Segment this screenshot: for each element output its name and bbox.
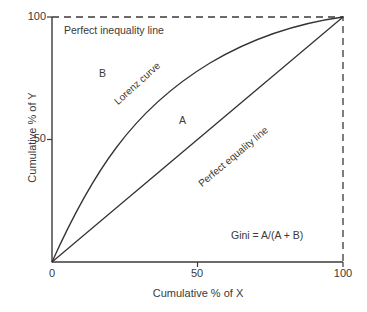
plot-canvas (0, 0, 367, 312)
perfect-equality-line (52, 17, 343, 262)
region-b-label: B (99, 68, 106, 79)
lorenz-curve-figure: 100 50 0 50 100 Cumulative % of X Cumula… (0, 0, 367, 312)
x-tick-label-0: 0 (42, 268, 62, 279)
y-tick-label-100: 100 (18, 11, 46, 22)
x-axis-title: Cumulative % of X (118, 288, 278, 299)
y-axis-title: Cumulative % of Y (27, 58, 38, 218)
x-tick-label-50: 50 (187, 268, 207, 279)
x-tick-label-100: 100 (331, 268, 355, 279)
perfect-inequality-line-label: Perfect inequality line (64, 25, 164, 36)
gini-formula-label: Gini = A/(A + B) (231, 230, 303, 241)
region-a-label: A (179, 115, 186, 126)
